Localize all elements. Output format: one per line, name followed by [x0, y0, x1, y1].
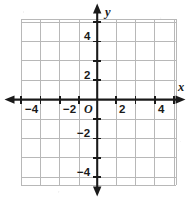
x-tick-label-2: 2 — [119, 104, 125, 116]
x-tick-label-minus4: −4 — [25, 104, 38, 116]
y-tick-label-4: 4 — [84, 31, 90, 43]
coordinate-grid-figure: −4 −2 2 4 4 2 −2 −4 O y x — [0, 0, 196, 202]
x-axis-label: x — [178, 81, 184, 94]
y-tick-label-2: 2 — [84, 70, 90, 82]
x-tick-label-4: 4 — [158, 104, 164, 116]
origin-label: O — [84, 103, 93, 115]
y-axis-arrow-up — [93, 4, 101, 14]
x-axis-arrow-left — [5, 95, 15, 103]
coordinate-plane-svg — [0, 0, 196, 202]
grid-lines — [21, 19, 176, 185]
y-tick-label-minus4: −4 — [77, 167, 90, 179]
x-axis-arrow-right — [176, 95, 186, 103]
y-axis-arrow-down — [93, 187, 101, 197]
y-axis-label: y — [105, 6, 111, 19]
x-tick-label-minus2: −2 — [63, 104, 76, 116]
y-tick-label-minus2: −2 — [77, 128, 90, 140]
